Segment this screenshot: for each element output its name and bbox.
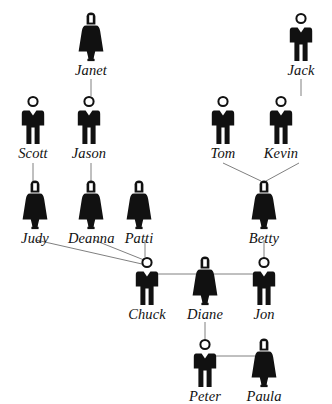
- male-figure-icon: [250, 256, 278, 306]
- male-figure-icon: [267, 95, 295, 145]
- person-label-judy: Judy: [12, 231, 58, 246]
- person-janet[interactable]: Janet: [68, 12, 114, 78]
- connection-line-tom-betty: [223, 163, 261, 181]
- male-figure-icon: [75, 95, 103, 145]
- male-figure-icon: [287, 12, 315, 62]
- female-figure-patti: [116, 180, 162, 230]
- female-figure-deanna: [68, 180, 114, 230]
- person-jon[interactable]: Jon: [241, 256, 287, 322]
- person-label-betty: Betty: [241, 231, 287, 246]
- person-judy[interactable]: Judy: [12, 180, 58, 246]
- person-chuck[interactable]: Chuck: [124, 256, 170, 322]
- male-figure-icon: [209, 95, 237, 145]
- female-figure-janet: [68, 12, 114, 62]
- male-figure-icon: [19, 95, 47, 145]
- female-figure-icon: [77, 12, 105, 62]
- person-tom[interactable]: Tom: [200, 95, 246, 161]
- person-label-paula: Paula: [241, 389, 287, 404]
- person-label-chuck: Chuck: [124, 307, 170, 322]
- person-label-janet: Janet: [68, 63, 114, 78]
- person-label-patti: Patti: [116, 231, 162, 246]
- male-figure-jason: [66, 95, 112, 145]
- female-figure-betty: [241, 180, 287, 230]
- male-figure-jack: [278, 12, 324, 62]
- person-deanna[interactable]: Deanna: [68, 180, 114, 246]
- person-label-diane: Diane: [182, 307, 228, 322]
- person-jack[interactable]: Jack: [278, 12, 324, 78]
- female-figure-icon: [191, 256, 219, 306]
- female-figure-icon: [250, 338, 278, 388]
- male-figure-icon: [191, 338, 219, 388]
- male-figure-peter: [182, 338, 228, 388]
- person-jason[interactable]: Jason: [66, 95, 112, 161]
- male-figure-kevin: [258, 95, 304, 145]
- person-betty[interactable]: Betty: [241, 180, 287, 246]
- person-diane[interactable]: Diane: [182, 256, 228, 322]
- female-figure-icon: [21, 180, 49, 230]
- female-figure-icon: [125, 180, 153, 230]
- female-figure-icon: [77, 180, 105, 230]
- male-figure-icon: [133, 256, 161, 306]
- person-label-jason: Jason: [66, 146, 112, 161]
- person-label-peter: Peter: [182, 389, 228, 404]
- male-figure-chuck: [124, 256, 170, 306]
- person-patti[interactable]: Patti: [116, 180, 162, 246]
- person-label-deanna: Deanna: [68, 231, 114, 246]
- person-label-scott: Scott: [10, 146, 56, 161]
- person-label-jack: Jack: [278, 63, 324, 78]
- person-label-tom: Tom: [200, 146, 246, 161]
- female-figure-paula: [241, 338, 287, 388]
- person-kevin[interactable]: Kevin: [258, 95, 304, 161]
- female-figure-judy: [12, 180, 58, 230]
- connection-line-kevin-betty: [266, 163, 299, 181]
- male-figure-jon: [241, 256, 287, 306]
- female-figure-icon: [250, 180, 278, 230]
- person-label-kevin: Kevin: [258, 146, 304, 161]
- family-tree-diagram: JanetJackScottJasonTomKevinJudyDeannaPat…: [0, 0, 332, 404]
- person-scott[interactable]: Scott: [10, 95, 56, 161]
- person-paula[interactable]: Paula: [241, 338, 287, 404]
- male-figure-scott: [10, 95, 56, 145]
- male-figure-tom: [200, 95, 246, 145]
- person-peter[interactable]: Peter: [182, 338, 228, 404]
- person-label-jon: Jon: [241, 307, 287, 322]
- female-figure-diane: [182, 256, 228, 306]
